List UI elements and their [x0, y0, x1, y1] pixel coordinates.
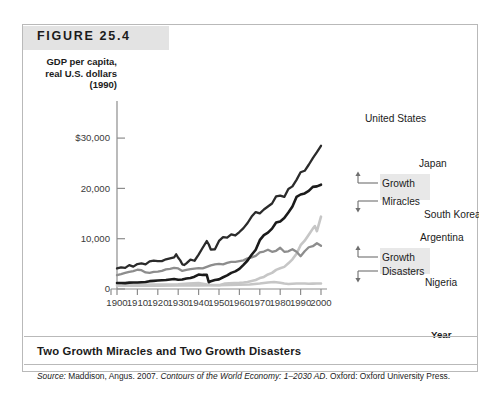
source-prefix: Source:: [37, 371, 66, 381]
x-tick-label: 2000: [310, 297, 331, 308]
y-tick-label: 20,000: [81, 183, 110, 194]
series-label-argentina: Argentina: [420, 232, 464, 243]
figure-number-label: FIGURE 25.4: [37, 29, 131, 43]
series-label-united-states: United States: [365, 113, 426, 124]
series-label-japan: Japan: [419, 158, 447, 169]
series-line-argentina: [117, 243, 321, 275]
x-axis-title: Year: [431, 329, 451, 340]
x-tick-label: 1930: [168, 297, 189, 308]
line-chart: 010,00020,000$30,00019001910192019301940…: [23, 51, 479, 313]
annotation-label-growth-disasters-line-1: Growth: [382, 252, 415, 263]
annotation-bracket-growth-disasters: GrowthDisasters: [355, 246, 430, 283]
source-divider: [24, 364, 478, 365]
x-tick-label: 1940: [188, 297, 209, 308]
source-author: Maddison, Angus. 2007.: [66, 371, 161, 381]
x-tick-label: 1970: [249, 297, 270, 308]
annotation-bracket-growth-miracles: GrowthMiracles: [355, 172, 430, 213]
figure-container: FIGURE 25.4 GDP per capita, real U.S. do…: [22, 24, 478, 372]
annotation-label-growth-miracles-line-2: Miracles: [382, 196, 420, 207]
source-publisher: . Oxford: Oxford University Press.: [325, 371, 450, 381]
x-tick-label: 1950: [208, 297, 229, 308]
x-tick-label: 1980: [270, 297, 291, 308]
x-tick-label: 1900: [106, 297, 127, 308]
x-tick-label: 1990: [290, 297, 311, 308]
source-title: Contours of the World Economy: 1–2030 AD: [160, 371, 325, 381]
x-tick-label: 1910: [127, 297, 148, 308]
annotation-label-growth-miracles-line-1: Growth: [382, 178, 415, 189]
series-label-nigeria: Nigeria: [425, 277, 458, 288]
y-tick-label: 0: [105, 283, 110, 294]
y-tick-label: $30,000: [75, 132, 110, 143]
y-tick-label: 10,000: [81, 233, 110, 244]
x-tick-label: 1960: [229, 297, 250, 308]
figure-caption: Two Growth Miracles and Two Growth Disas…: [37, 345, 301, 357]
series-line-japan: [117, 185, 321, 283]
series-label-south-korea: South Korea: [424, 209, 479, 220]
plot-region: 010,00020,000$30,00019001910192019301940…: [23, 51, 479, 313]
figure-source-note: Source: Maddison, Angus. 2007. Contours …: [37, 371, 450, 381]
x-tick-label: 1920: [147, 297, 168, 308]
annotation-label-growth-disasters-line-2: Disasters: [382, 266, 424, 277]
caption-divider: [24, 336, 478, 337]
